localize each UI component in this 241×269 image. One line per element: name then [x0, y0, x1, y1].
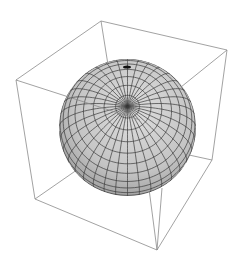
sphere-plot [0, 0, 241, 269]
box-edge [35, 199, 157, 250]
box-edge [16, 80, 35, 199]
sphere-north-pole [123, 65, 131, 68]
box-edge [16, 21, 101, 80]
box-edge [212, 50, 227, 160]
box-edge [101, 21, 227, 50]
box-edge [157, 188, 162, 250]
